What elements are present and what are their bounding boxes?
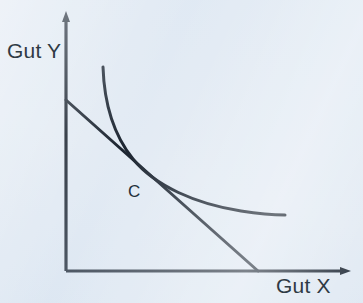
- budget-line: [66, 100, 258, 271]
- y-axis-label: Gut Y: [7, 40, 61, 61]
- x-axis-label: Gut X: [276, 275, 331, 296]
- optimum-point-label: C: [128, 183, 140, 200]
- economics-diagram: Gut Y Gut X C: [0, 0, 363, 303]
